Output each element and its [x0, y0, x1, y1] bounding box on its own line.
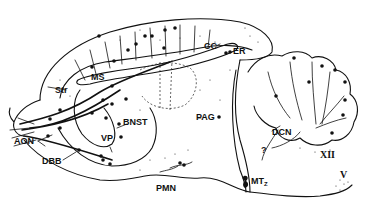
label-er: ER: [233, 47, 246, 56]
label-ms: MS: [91, 73, 105, 82]
mtz-projection-line: [233, 70, 246, 192]
brain-outline-drawing: [0, 0, 369, 210]
label-aon: AON: [14, 137, 34, 146]
cerebellum-outline: [248, 52, 357, 145]
olfactory-bulb-outline: [9, 100, 40, 136]
mtz-blob: [243, 176, 249, 188]
dashed-vertical-2: [170, 60, 172, 110]
label-question: ?: [261, 146, 267, 155]
cortex-outline: [40, 19, 272, 100]
label-v: V: [340, 170, 347, 180]
label-dbb: DBB: [42, 157, 62, 166]
cerebellum-folia: [268, 62, 346, 128]
label-pag: PAG: [196, 113, 215, 122]
brain-diagram: CC ER MS Str AON BNST VP DBB PMN PAG DCN…: [0, 0, 369, 210]
label-str: Str: [55, 86, 68, 95]
label-xii: XII: [320, 150, 335, 160]
label-pmn: PMN: [156, 184, 176, 193]
cell-dots: [46, 26, 347, 167]
label-cc: CC: [204, 42, 217, 51]
label-mtz: MTZ: [251, 177, 268, 187]
label-mtz-main: MT: [251, 176, 264, 186]
brainstem-outline: [235, 60, 250, 192]
label-bnst: BNST: [123, 118, 148, 127]
label-vp: VP: [101, 134, 113, 143]
label-dcn: DCN: [272, 128, 292, 137]
label-mtz-sub: Z: [264, 181, 268, 187]
pmn-fibres: [160, 162, 192, 172]
